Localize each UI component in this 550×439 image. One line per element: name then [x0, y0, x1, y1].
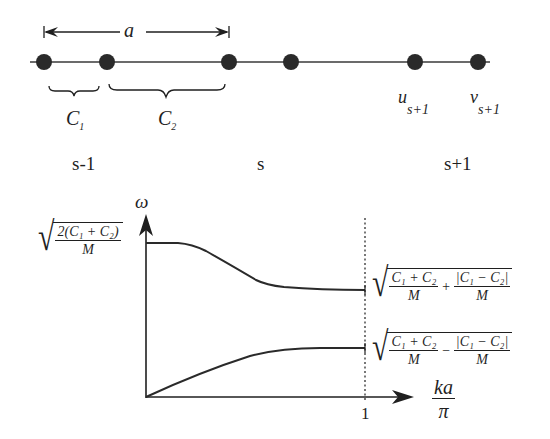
brace-c2 — [109, 84, 225, 97]
spring-label-c2: C2 — [158, 108, 176, 132]
brace-c1 — [49, 86, 99, 96]
y-axis-label: ω — [135, 192, 148, 211]
y-max-label: √ 2(C₁ + C₂)M — [38, 222, 123, 257]
optical-branch — [146, 243, 365, 290]
atom — [470, 54, 486, 70]
acoustic-branch — [146, 348, 365, 397]
spacing-label: a — [124, 20, 134, 40]
optical-edge-label: √ C₁ + C₂M + |C₁ − C₂|M — [372, 268, 512, 303]
diagram-canvas — [0, 0, 550, 439]
x-axis-label: kaπ — [432, 377, 455, 421]
atom — [99, 54, 115, 70]
displacement-label-u: us+1 — [398, 88, 429, 111]
acoustic-edge-label: √ C₁ + C₂M − |C₁ − C₂|M — [372, 332, 512, 367]
spring-label-c1: C1 — [66, 108, 84, 132]
atom — [283, 54, 299, 70]
spacing-arrow — [44, 26, 229, 38]
x-tick-label: 1 — [361, 405, 370, 422]
atom — [221, 54, 237, 70]
cell-label-s-minus-1: s-1 — [72, 154, 95, 173]
displacement-label-v: vs+1 — [470, 88, 500, 111]
cell-label-s-plus-1: s+1 — [444, 154, 472, 173]
atom — [407, 54, 423, 70]
atom — [36, 54, 52, 70]
cell-label-s: s — [257, 154, 264, 173]
